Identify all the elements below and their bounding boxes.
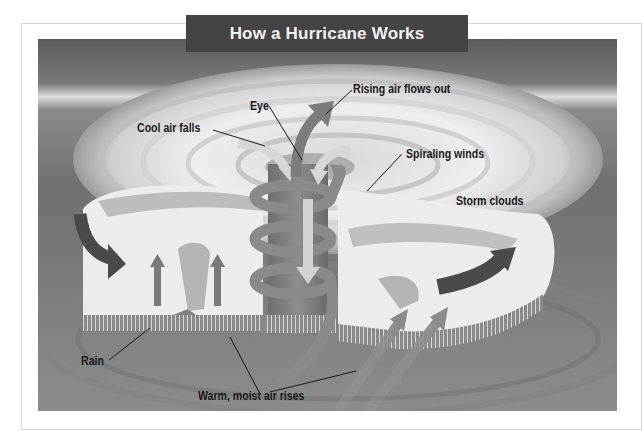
hurricane-illustration [38,39,617,411]
label-warm-moist-air: Warm, moist air rises [198,389,304,403]
label-rain: Rain [81,354,104,368]
label-spiraling-winds: Spiraling winds [406,147,484,161]
updraft-arrow-2 [214,264,221,306]
label-eye: Eye [250,99,269,113]
updraft-arrow-1 [154,264,161,306]
label-rising-air: Rising air flows out [353,82,450,96]
label-cool-air-falls: Cool air falls [137,121,200,135]
label-storm-clouds: Storm clouds [456,194,523,208]
rain-left [83,315,263,331]
hurricane-cross-section [38,39,617,411]
eye-down-arrow [303,199,313,269]
diagram-title: How a Hurricane Works [186,15,468,52]
